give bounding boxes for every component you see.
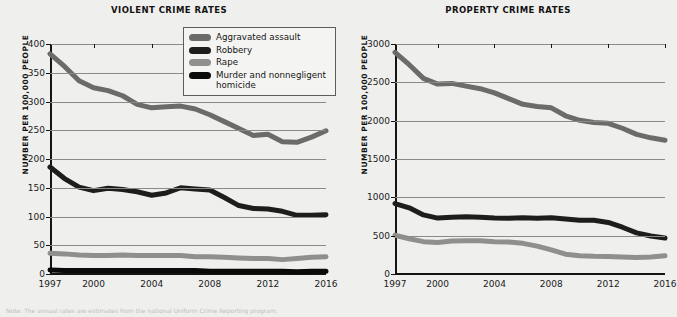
gridline [395, 82, 665, 83]
y-axis-tick-mark [391, 159, 395, 160]
x-axis-tick-mark [94, 44, 95, 48]
x-axis-tick-mark [665, 44, 666, 48]
x-axis-tick-mark [608, 44, 609, 48]
y-axis-tick-label: 350 [28, 68, 45, 78]
legend-item: Robbery [189, 45, 329, 56]
x-axis-tick-label: 2004 [483, 279, 506, 289]
series-line [50, 167, 326, 215]
gridline [395, 121, 665, 122]
y-axis-tick-label: 2000 [367, 116, 390, 126]
x-axis-tick-label: 1997 [384, 279, 407, 289]
x-axis-tick-mark [152, 44, 153, 48]
y-axis-tick-label: 50 [34, 240, 45, 250]
series-line [50, 270, 326, 272]
crime-rates-figure: VIOLENT CRIME RATES NUMBER PER 100,000 P… [0, 0, 677, 317]
gridline [50, 130, 326, 131]
y-axis-tick-label: 3000 [367, 39, 390, 49]
y-axis-tick-label: 1500 [367, 154, 390, 164]
x-axis-tick-mark [395, 44, 396, 48]
y-axis-tick-mark [46, 73, 50, 74]
y-axis-tick-mark [46, 130, 50, 131]
series-line [395, 204, 665, 239]
gridline [395, 197, 665, 198]
y-axis-tick-label: 2500 [367, 77, 390, 87]
y-axis-tick-mark [46, 245, 50, 246]
y-axis-tick-mark [391, 82, 395, 83]
y-axis-tick-mark [46, 102, 50, 103]
legend-item: Rape [189, 57, 329, 68]
legend-swatch-icon [189, 72, 211, 79]
series-line [395, 52, 665, 140]
series-line [395, 235, 665, 257]
legend-item: Aggravated assault [189, 32, 329, 43]
y-axis-tick-mark [391, 274, 395, 275]
x-axis-tick-mark [494, 44, 495, 48]
property-crime-panel: PROPERTY CRIME RATES NUMBER PER 100,000 … [339, 0, 677, 303]
gridline [50, 102, 326, 103]
property-crime-plot-area: 0500100015002000250030001997200020042008… [395, 44, 665, 274]
y-axis-tick-label: 150 [28, 183, 45, 193]
legend-item-label: Rape [216, 57, 238, 68]
y-axis-tick-mark [46, 274, 50, 275]
violent-crime-legend: Aggravated assaultRobberyRapeMurder and … [183, 27, 336, 96]
y-axis-tick-mark [391, 197, 395, 198]
y-axis-tick-label: 400 [28, 39, 45, 49]
y-axis-tick-label: 0 [39, 269, 45, 279]
y-axis-tick-label: 250 [28, 125, 45, 135]
x-axis-tick-label: 2004 [140, 279, 163, 289]
gridline [50, 159, 326, 160]
legend-item-label: Robbery [216, 45, 252, 56]
y-axis-tick-mark [391, 236, 395, 237]
violent-crime-panel: VIOLENT CRIME RATES NUMBER PER 100,000 P… [0, 0, 338, 303]
x-axis-tick-mark [438, 44, 439, 48]
y-axis-tick-mark [46, 188, 50, 189]
y-axis-tick-mark [46, 159, 50, 160]
x-axis-tick-mark [50, 44, 51, 48]
legend-swatch-icon [189, 59, 211, 66]
x-axis-tick-label: 2008 [540, 279, 563, 289]
legend-item-label: Aggravated assault [216, 32, 300, 43]
series-line [50, 253, 326, 259]
x-axis-tick-mark [551, 44, 552, 48]
y-axis-tick-mark [391, 121, 395, 122]
property-crime-title: PROPERTY CRIME RATES [339, 5, 677, 15]
figure-footnote: Note: The annual rates are estimates fro… [6, 307, 671, 317]
gridline [395, 44, 665, 45]
gridline [395, 236, 665, 237]
y-axis-tick-mark [46, 217, 50, 218]
y-axis-tick-label: 1000 [367, 192, 390, 202]
y-axis-tick-label: 0 [384, 269, 390, 279]
x-axis-tick-label: 2012 [256, 279, 279, 289]
gridline [50, 217, 326, 218]
x-axis-tick-label: 2000 [82, 279, 105, 289]
y-axis-tick-label: 500 [373, 231, 390, 241]
y-axis-tick-label: 100 [28, 212, 45, 222]
legend-swatch-icon [189, 47, 211, 54]
x-axis-tick-label: 1997 [39, 279, 62, 289]
legend-item: Murder and nonnegligent homicide [189, 70, 329, 91]
y-axis-tick-label: 300 [28, 97, 45, 107]
gridline [395, 159, 665, 160]
x-axis-tick-label: 2008 [198, 279, 221, 289]
x-axis-tick-label: 2000 [426, 279, 449, 289]
legend-item-label: Murder and nonnegligent homicide [216, 70, 329, 91]
x-axis-tick-label: 2012 [597, 279, 620, 289]
legend-swatch-icon [189, 34, 211, 41]
gridline [50, 245, 326, 246]
y-axis-tick-label: 200 [28, 154, 45, 164]
x-axis-tick-label: 2016 [654, 279, 677, 289]
x-axis-tick-label: 2016 [315, 279, 338, 289]
violent-crime-title: VIOLENT CRIME RATES [0, 5, 338, 15]
gridline [50, 188, 326, 189]
